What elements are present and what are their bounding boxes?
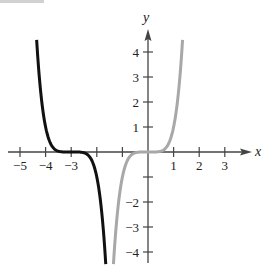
- x-axis-label: x: [254, 144, 262, 159]
- y-tick-label: −4: [125, 245, 139, 260]
- x-tick-label: 2: [196, 158, 203, 173]
- x-tick-label: −3: [64, 158, 78, 173]
- y-axis-label: y: [141, 10, 150, 25]
- y-tick-label: −2: [125, 195, 139, 210]
- x-tick-label: 3: [222, 158, 229, 173]
- function-graph: −5−4−3123 4321−2−3−4 x y: [0, 0, 267, 265]
- x-ticks: −5−4−3123: [13, 147, 228, 173]
- x-tick-label: −4: [39, 158, 53, 173]
- y-tick-label: 2: [133, 95, 140, 110]
- axes: −5−4−3123 4321−2−3−4 x y: [8, 10, 262, 263]
- y-tick-label: 3: [133, 70, 140, 85]
- y-tick-label: 1: [133, 120, 140, 135]
- x-tick-label: 1: [170, 158, 177, 173]
- y-tick-label: −3: [125, 220, 139, 235]
- x-tick-label: −5: [13, 158, 27, 173]
- y-tick-label: 4: [133, 45, 140, 60]
